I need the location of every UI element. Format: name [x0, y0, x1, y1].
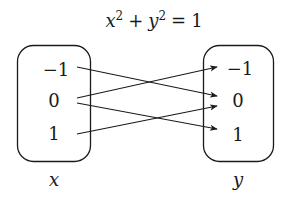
codomain-element-1: 1: [232, 124, 243, 145]
codomain-element-neg1: −1: [227, 58, 254, 79]
equation-title: x2+y2=1: [105, 9, 202, 31]
domain-element-neg1: −1: [43, 59, 70, 80]
domain-element-1: 1: [48, 123, 59, 144]
arrow-1-to-0: [77, 106, 217, 134]
codomain-set-label: y: [232, 169, 244, 190]
domain-set-label: x: [49, 169, 59, 190]
relation-diagram: x2+y2=1 −1 0 1 x −1 0 1 y: [0, 0, 287, 197]
codomain-element-0: 0: [232, 90, 243, 111]
arrow-0-to-1: [77, 103, 217, 129]
domain-element-0: 0: [48, 90, 59, 111]
